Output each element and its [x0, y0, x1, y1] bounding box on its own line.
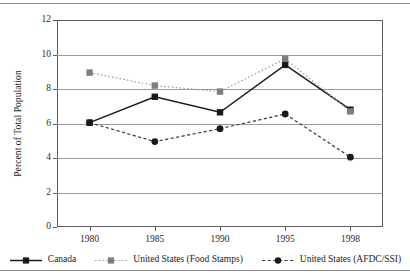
data-point-marker [217, 88, 223, 94]
legend-label: Canada [48, 255, 77, 265]
x-tick-label: 1995 [276, 235, 295, 245]
legend-swatch-icon [94, 255, 128, 266]
data-point-marker [282, 62, 288, 68]
data-point-marker [86, 69, 92, 75]
data-point-marker [151, 138, 158, 145]
chart-figure: Percent of Total Population 024681012 19… [0, 0, 410, 280]
x-tick-label: 1985 [145, 235, 164, 245]
data-point-marker [217, 125, 224, 132]
data-point-marker [347, 154, 354, 161]
legend-swatch-icon [9, 255, 43, 266]
legend-item-canada[interactable]: Canada [9, 255, 77, 266]
x-tick-label: 1998 [341, 235, 360, 245]
y-tick-label: 8 [46, 84, 51, 94]
x-tick-mark [285, 227, 286, 231]
legend-label: United States (Food Stamps) [133, 255, 243, 265]
y-tick-label: 2 [46, 188, 51, 198]
chart-legend: CanadaUnited States (Food Stamps)United … [0, 252, 410, 268]
series-line [90, 114, 351, 157]
legend-item-united-states-food-stamps[interactable]: United States (Food Stamps) [94, 255, 243, 266]
y-tick-label: 4 [46, 153, 51, 163]
data-point-marker [282, 111, 289, 118]
series-line [90, 59, 351, 112]
bottom-divider-rule [0, 270, 410, 271]
legend-label: United States (AFDC/SSI) [300, 255, 401, 265]
y-tick-label: 12 [42, 15, 52, 25]
top-divider-rule [0, 3, 410, 4]
legend-swatch-icon [261, 255, 295, 266]
x-tick-mark [220, 227, 221, 231]
x-tick-mark [155, 227, 156, 231]
series-united-states-afdc-ssi [86, 111, 354, 161]
series-data-layer [57, 20, 383, 227]
plot-area: 024681012 19801985199019951998 [57, 20, 383, 227]
x-tick-mark [350, 227, 351, 231]
legend-item-united-states-afdc-ssi[interactable]: United States (AFDC/SSI) [261, 255, 401, 266]
x-tick-label: 1980 [80, 235, 99, 245]
y-tick-label: 0 [46, 222, 51, 232]
data-point-marker [217, 109, 223, 115]
y-tick-label: 6 [46, 119, 51, 129]
data-point-marker [347, 108, 353, 114]
y-tick-label: 10 [42, 50, 52, 60]
data-point-marker [282, 56, 288, 62]
data-point-marker [152, 82, 158, 88]
y-axis-title: Percent of Total Population [13, 20, 27, 227]
data-point-marker [152, 94, 158, 100]
x-tick-label: 1990 [211, 235, 230, 245]
y-tick-mark [53, 227, 57, 228]
data-point-marker [86, 119, 93, 126]
x-tick-mark [90, 227, 91, 231]
